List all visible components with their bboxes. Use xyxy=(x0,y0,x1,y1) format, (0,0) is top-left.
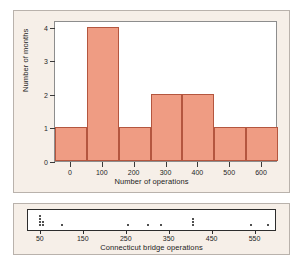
histogram-bar xyxy=(151,94,183,161)
dotplot-tick-label: 550 xyxy=(249,235,261,242)
histogram-x-tick-label: 0 xyxy=(68,169,72,176)
histogram-bar xyxy=(214,127,246,161)
dotplot-dot xyxy=(127,224,129,226)
figure-page: 01234 Number of months 01002003004005006… xyxy=(0,0,306,266)
histogram-bar xyxy=(182,94,214,161)
dotplot-plot-area xyxy=(27,209,276,231)
dotplot-tick-label: 450 xyxy=(206,235,218,242)
histogram-panel: 01234 Number of months 01002003004005006… xyxy=(13,10,290,193)
histogram-x-tick-label: 200 xyxy=(128,169,140,176)
dotplot-dot xyxy=(42,221,44,223)
dotplot-dot xyxy=(192,221,194,223)
histogram-x-tick-label: 100 xyxy=(96,169,108,176)
dotplot-tick xyxy=(40,231,41,234)
histogram-y-tick-label: 4 xyxy=(44,24,48,31)
histogram-bars xyxy=(55,22,276,161)
histogram-y-tick-label: 0 xyxy=(44,159,48,166)
histogram-y-tick xyxy=(50,28,55,29)
dotplot-dot xyxy=(61,224,63,226)
dotplot-tick-label: 150 xyxy=(77,235,89,242)
histogram-bar xyxy=(87,27,119,161)
dotplot-dot xyxy=(39,224,41,226)
histogram-y-tick-label: 1 xyxy=(44,125,48,132)
histogram-bar xyxy=(55,127,87,161)
dotplot-dot xyxy=(42,224,44,226)
dotplot-tick xyxy=(255,231,256,234)
dotplot-dot xyxy=(147,224,149,226)
dotplot-dot xyxy=(250,224,252,226)
histogram-x-tick xyxy=(134,162,135,167)
histogram-x-tick xyxy=(70,162,71,167)
histogram-y-tick-label: 2 xyxy=(44,91,48,98)
histogram-x-tick xyxy=(102,162,103,167)
histogram-x-tick xyxy=(261,162,262,167)
dotplot-tick-label: 350 xyxy=(163,235,175,242)
histogram-plot-area xyxy=(54,21,277,162)
histogram-x-tick-label: 500 xyxy=(223,169,235,176)
dotplot-dot xyxy=(192,224,194,226)
dotplot-tick xyxy=(169,231,170,234)
histogram-x-tick-label: 600 xyxy=(255,169,267,176)
dotplot-tick-label: 250 xyxy=(120,235,132,242)
histogram-y-axis-title: Number of months xyxy=(21,29,30,92)
dotplot-axis: 50150250350450550 xyxy=(27,231,276,232)
dotplot-dot xyxy=(160,224,162,226)
dotplot-dot xyxy=(39,218,41,220)
histogram-y-tick xyxy=(50,128,55,129)
histogram-y-tick xyxy=(50,95,55,96)
dotplot-axis-title: Connecticut bridge operations xyxy=(14,243,289,252)
histogram-x-tick xyxy=(229,162,230,167)
dotplot-tick-label: 50 xyxy=(36,235,44,242)
dotplot-dot xyxy=(267,224,269,226)
histogram-x-tick xyxy=(166,162,167,167)
histogram-bar xyxy=(119,127,151,161)
histogram-bar xyxy=(246,127,278,161)
histogram-x-tick-label: 400 xyxy=(192,169,204,176)
dotplot-tick xyxy=(83,231,84,234)
histogram-x-tick-label: 300 xyxy=(160,169,172,176)
histogram-y-axis: 01234 xyxy=(54,21,55,162)
histogram-y-tick-label: 3 xyxy=(44,58,48,65)
dotplot-dot xyxy=(192,218,194,220)
dotplot-tick xyxy=(212,231,213,234)
dotplot-dot xyxy=(39,215,41,217)
histogram-y-tick xyxy=(50,61,55,62)
histogram-x-axis-title: Number of operations xyxy=(14,177,289,186)
dotplot-dot xyxy=(39,221,41,223)
histogram-x-tick xyxy=(197,162,198,167)
dotplot-dots xyxy=(28,210,275,230)
dotplot-panel: 50150250350450550 Connecticut bridge ope… xyxy=(13,203,290,255)
dotplot-tick xyxy=(126,231,127,234)
histogram-x-axis: 0100200300400500600 xyxy=(54,162,277,163)
